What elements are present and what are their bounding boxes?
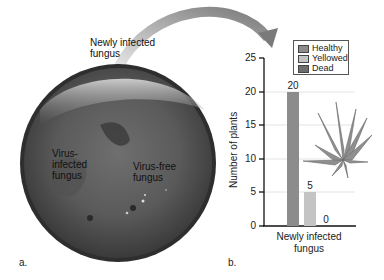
x-category-label: Newly infected fungus (264, 231, 354, 255)
bar-yellowed (304, 192, 316, 226)
y-axis-label: Number of plants (228, 112, 239, 188)
legend-item-healthy: Healthy (298, 43, 343, 53)
petri-dish-image (20, 64, 216, 262)
bar-healthy (287, 92, 299, 226)
legend-item-dead: Dead (298, 63, 334, 73)
panel-label-a: a. (19, 257, 27, 268)
y-tick-15: 15 (240, 119, 256, 130)
label-line: fungus (133, 172, 176, 183)
legend-swatch-icon (298, 65, 309, 73)
y-tick-20: 20 (240, 86, 256, 97)
label-newly-infected: Newly infected fungus (90, 37, 155, 59)
y-tick-10: 10 (240, 153, 256, 164)
legend-label: Healthy (312, 43, 343, 53)
panel-label-b: b. (228, 257, 236, 268)
chart-legend: Healthy Yellowed Dead (293, 40, 349, 75)
x-category-line: Newly infected (264, 231, 354, 243)
label-line: Virus-free (133, 161, 176, 172)
y-tick-0: 0 (240, 220, 256, 231)
label-virus-free: Virus-free fungus (133, 161, 176, 183)
legend-swatch-icon (298, 55, 309, 63)
plant-icon (303, 102, 372, 178)
y-tick-5: 5 (240, 186, 256, 197)
legend-label: Dead (312, 63, 334, 73)
label-line: fungus (52, 170, 87, 181)
legend-item-yellowed: Yellowed (298, 53, 348, 63)
bar-value-yellowed: 5 (300, 180, 320, 191)
y-tick-25: 25 (240, 52, 256, 63)
legend-label: Yellowed (312, 53, 348, 63)
label-line: infected (52, 159, 87, 170)
label-line: Newly infected (90, 37, 155, 48)
legend-swatch-icon (298, 45, 309, 53)
bar-value-healthy: 20 (283, 80, 303, 91)
x-category-line: fungus (264, 243, 354, 255)
label-virus-infected: Virus- infected fungus (52, 148, 87, 181)
bar-value-dead: 0 (316, 214, 336, 225)
label-line: Virus- (52, 148, 87, 159)
label-line: fungus (90, 48, 155, 59)
